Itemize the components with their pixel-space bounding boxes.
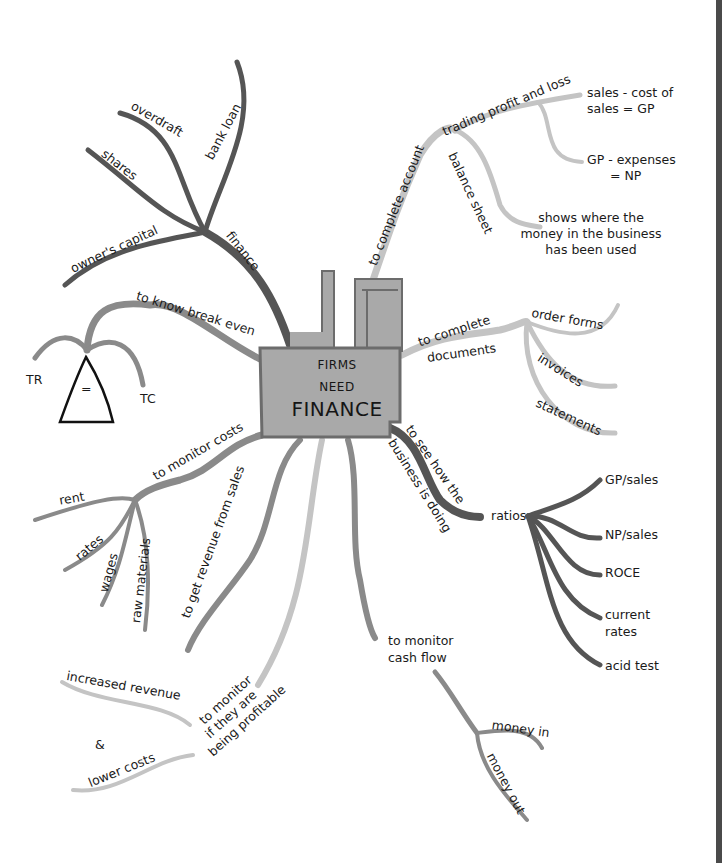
label-np-note-2: = NP (610, 168, 641, 184)
mind-map-canvas (0, 0, 722, 863)
label-cash-flow-2: cash flow (388, 650, 447, 666)
label-gp-note-2: sales = GP (587, 101, 655, 117)
label-balance-note-3: has been used (526, 242, 656, 258)
label-np-note-1: GP - expenses (587, 152, 676, 168)
label-acid-test: acid test (605, 658, 659, 674)
label-balance-note-1: shows where the (526, 210, 656, 226)
label-gp-note-1: sales - cost of (587, 85, 673, 101)
label-tr: TR (26, 372, 42, 388)
branch-business-doing (390, 428, 600, 665)
branch-cash-flow (348, 440, 542, 820)
label-gp-sales: GP/sales (605, 472, 658, 488)
label-cash-flow-1: to monitor (388, 633, 453, 649)
label-ratios: ratios (491, 508, 526, 524)
label-ampersand: & (95, 737, 105, 753)
label-rates-ratio: rates (605, 624, 637, 640)
center-title-finance: FINANCE (282, 397, 392, 421)
center-title-firms: FIRMS (292, 358, 382, 372)
label-roce: ROCE (605, 565, 640, 581)
page-edge-bar (716, 0, 722, 863)
label-balance-note-2: money in the business (520, 226, 662, 242)
label-current: current (605, 607, 650, 623)
center-title-need: NEED (292, 380, 382, 394)
label-equals: = (81, 381, 91, 397)
label-tc: TC (140, 391, 156, 407)
branch-monitor-costs (35, 435, 262, 630)
label-np-sales: NP/sales (605, 527, 658, 543)
